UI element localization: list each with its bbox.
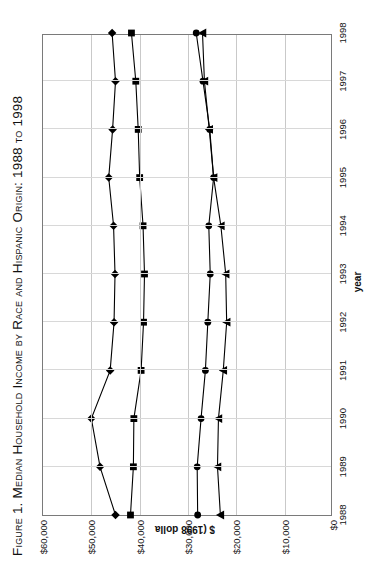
series-square [127, 30, 148, 519]
x-axis-tick-label: 1996 [337, 119, 348, 140]
y-axis-tick-label: $20,000 [231, 520, 242, 554]
x-gridline [43, 321, 331, 322]
y-gridline [188, 35, 189, 515]
data-point-diamond [111, 511, 120, 520]
x-gridline [43, 177, 331, 178]
x-gridline [43, 128, 331, 129]
y-gridline [236, 35, 237, 515]
y-axis-tick-label: $30,000 [183, 520, 194, 554]
x-gridline [43, 80, 331, 81]
x-gridline [43, 225, 331, 226]
data-point-square [128, 30, 135, 37]
y-axis-tick-label: $40,000 [134, 520, 145, 554]
x-axis-tick-label: 1991 [337, 360, 348, 381]
x-axis-tick-label: 1994 [337, 215, 348, 236]
x-axis-tick-label: 1992 [337, 312, 348, 333]
x-axis-tick-label: 1998 [337, 22, 348, 43]
figure-page: Figure 1. Median Household Income by Rac… [0, 0, 370, 564]
x-gridline [43, 418, 331, 419]
x-axis-tick-label: 1995 [337, 167, 348, 188]
x-gridline [43, 369, 331, 370]
x-axis-tick-label: 1989 [337, 456, 348, 477]
x-gridline [43, 273, 331, 274]
data-point-circle [194, 512, 201, 519]
x-axis-label: year [352, 272, 363, 293]
series-circle [193, 30, 217, 519]
page-title: Figure 1. Median Household Income by Rac… [10, 96, 25, 556]
y-axis-tick-label: $10,000 [279, 520, 290, 554]
x-axis-tick-label: 1988 [337, 504, 348, 525]
y-gridline [91, 35, 92, 515]
x-axis-tick-label: 1997 [337, 71, 348, 92]
rotated-chart-stage: Figure 1. Median Household Income by Rac… [0, 0, 370, 564]
x-gridline [43, 466, 331, 467]
data-point-square [127, 512, 134, 519]
y-gridline [285, 35, 286, 515]
data-point-circle [207, 271, 214, 278]
data-point-diamond [111, 270, 120, 279]
plot-area: $0$10,000$20,000$30,000$40,000$50,000$60… [42, 34, 332, 516]
data-point-diamond [108, 29, 117, 38]
x-axis-tick-label: 1990 [337, 408, 348, 429]
y-axis-tick-label: $60,000 [38, 520, 49, 554]
x-axis-tick-label: 1993 [337, 263, 348, 284]
y-gridline [140, 35, 141, 515]
data-point-square [141, 271, 148, 278]
y-axis-tick-label: $50,000 [86, 520, 97, 554]
